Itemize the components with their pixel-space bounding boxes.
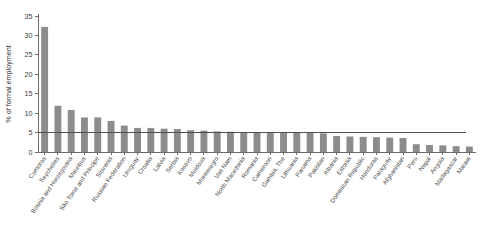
x-tick-label: Croatia	[136, 155, 153, 176]
bar	[267, 133, 274, 152]
bar	[400, 138, 407, 152]
y-tick-label: 20	[25, 70, 33, 79]
bar	[386, 138, 393, 152]
y-tick-label: 15	[25, 89, 33, 98]
bar	[54, 106, 61, 152]
bar	[346, 136, 353, 152]
bar	[121, 126, 128, 152]
y-tick-label: 5	[29, 128, 33, 137]
bar	[227, 132, 234, 152]
bar	[134, 128, 141, 152]
bar	[360, 137, 367, 152]
bar	[373, 137, 380, 152]
y-tick-label: 25	[25, 50, 33, 59]
bar	[94, 117, 101, 152]
bar	[240, 132, 247, 152]
bar	[68, 110, 75, 152]
x-tick-label: Malawi	[455, 155, 472, 175]
bar	[466, 147, 473, 152]
y-axis-title: % of formal employment	[4, 45, 13, 123]
bar	[200, 131, 207, 152]
bar-chart: 05101520253035% of formal employmentComo…	[0, 0, 481, 251]
bar	[293, 133, 300, 152]
bar	[81, 117, 88, 152]
bar	[108, 121, 115, 152]
bar	[426, 145, 433, 152]
bar	[413, 144, 420, 152]
y-tick-label: 30	[25, 31, 33, 40]
bar	[187, 130, 194, 152]
bar	[307, 133, 314, 152]
y-tick-label: 10	[25, 109, 33, 118]
y-tick-label: 0	[29, 148, 33, 157]
bar	[333, 136, 340, 152]
bar	[280, 133, 287, 152]
bar	[439, 145, 446, 152]
bar	[214, 131, 221, 152]
bar	[320, 133, 327, 152]
chart-canvas: 05101520253035% of formal employmentComo…	[0, 0, 481, 251]
bar	[147, 128, 154, 152]
bar	[254, 132, 261, 152]
y-tick-label: 35	[25, 12, 33, 21]
bar	[453, 146, 460, 152]
